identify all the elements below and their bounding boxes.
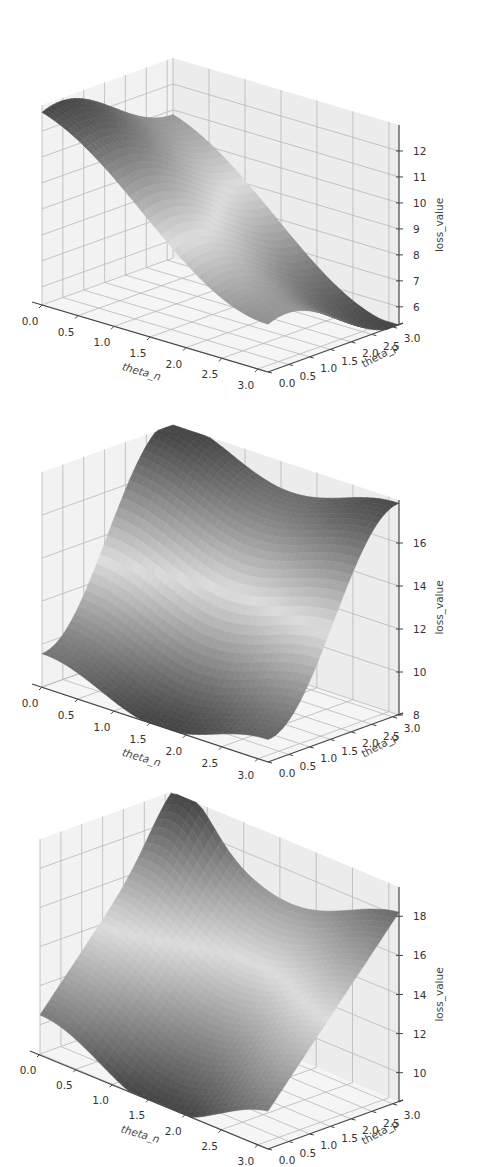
y-tick-label: 1.5: [341, 745, 358, 757]
x-tick-label: 3.0: [237, 1155, 254, 1167]
y-tick-label: 0.5: [300, 760, 317, 772]
z-tick-label: 12: [413, 145, 426, 157]
y-tick-label: 1.0: [320, 1139, 337, 1151]
z-tick-label: 9: [413, 223, 420, 235]
x-tick-label: 0.5: [58, 709, 75, 721]
x-tick-label: 1.0: [94, 721, 111, 733]
x-tick-label: 1.0: [94, 336, 111, 348]
z-tick-label: 18: [413, 910, 426, 922]
x-tick-label: 1.5: [129, 1109, 146, 1121]
x-axis-label: theta_n: [121, 360, 163, 383]
x-tick-label: 2.5: [202, 757, 219, 769]
x-tick-label: 0.5: [58, 326, 75, 338]
z-tick-label: 10: [413, 197, 426, 209]
x-tick-label: 2.5: [202, 368, 219, 380]
z-tick-label: 14: [413, 989, 427, 1001]
surface-plot-2-canvas: 0.00.51.01.52.02.53.0theta_n0.00.51.01.5…: [0, 390, 499, 779]
y-tick-label: 3.0: [404, 332, 421, 344]
y-axis-label: theta_p: [359, 1117, 400, 1147]
x-tick-label: 0.0: [20, 1064, 37, 1076]
y-tick-label: 1.5: [341, 355, 358, 367]
z-tick-label: 12: [413, 623, 426, 635]
z-axis-label: loss_value: [433, 198, 446, 252]
y-axis-label: theta_p: [359, 340, 400, 370]
z-tick-label: 8: [413, 249, 420, 261]
z-tick-label: 7: [413, 275, 420, 287]
z-axis-label: loss_value: [433, 580, 446, 634]
z-tick-label: 14: [413, 580, 427, 592]
x-axis-label: theta_n: [120, 1123, 162, 1146]
z-tick-label: 12: [413, 1028, 426, 1040]
x-tick-label: 2.0: [165, 1125, 182, 1137]
z-tick-label: 10: [413, 1067, 426, 1079]
y-tick-label: 0.0: [279, 767, 296, 779]
x-tick-label: 3.0: [238, 379, 255, 389]
surface-plot-3-canvas: 0.00.51.01.52.02.53.0theta_n0.00.51.01.5…: [0, 779, 499, 1167]
surface-plot-1: 0.00.51.01.52.02.53.0theta_n0.00.51.01.5…: [0, 0, 499, 389]
z-tick-label: 10: [413, 666, 426, 678]
x-tick-label: 0.0: [22, 315, 39, 327]
y-tick-label: 3.0: [404, 1109, 421, 1121]
y-tick-label: 1.0: [320, 752, 337, 764]
x-tick-label: 1.5: [130, 347, 147, 359]
z-axis-label: loss_value: [433, 967, 446, 1021]
y-tick-label: 0.0: [279, 1154, 296, 1166]
z-tick-label: 11: [413, 171, 426, 183]
x-tick-label: 2.0: [166, 745, 183, 757]
z-tick-label: 16: [413, 949, 427, 961]
x-tick-label: 3.0: [238, 769, 255, 779]
surface-plot-1-canvas: 0.00.51.01.52.02.53.0theta_n0.00.51.01.5…: [0, 0, 499, 389]
x-axis-label: theta_n: [121, 746, 163, 769]
y-axis-label: theta_p: [359, 730, 400, 760]
y-tick-label: 3.0: [404, 722, 421, 734]
y-tick-label: 0.5: [300, 1147, 317, 1159]
y-tick-label: 1.5: [341, 1132, 358, 1144]
x-tick-label: 1.0: [92, 1094, 109, 1106]
z-tick-label: 16: [413, 537, 427, 549]
surface-plot-2: 0.00.51.01.52.02.53.0theta_n0.00.51.01.5…: [0, 390, 499, 779]
surface-plot-3: 0.00.51.01.52.02.53.0theta_n0.00.51.01.5…: [0, 779, 499, 1167]
x-tick-label: 0.0: [22, 697, 39, 709]
z-tick-label: 8: [413, 709, 420, 721]
x-tick-label: 2.5: [201, 1140, 218, 1152]
y-tick-label: 0.5: [300, 370, 317, 382]
x-tick-label: 0.5: [56, 1079, 73, 1091]
x-tick-label: 1.5: [130, 733, 147, 745]
x-tick-label: 2.0: [166, 358, 183, 370]
z-tick-label: 6: [413, 301, 420, 313]
y-tick-label: 0.0: [279, 377, 296, 389]
y-tick-label: 1.0: [320, 362, 337, 374]
